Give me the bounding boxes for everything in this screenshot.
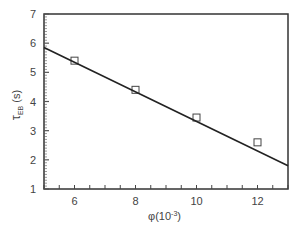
tick-labels: 6810121234567 xyxy=(30,8,264,207)
chart: 6810121234567 φ(10-3) τEB (s) xyxy=(0,0,303,233)
y-tick-label: 5 xyxy=(30,66,36,78)
y-tick-label: 6 xyxy=(30,37,36,49)
y-tick-label: 7 xyxy=(30,8,36,20)
y-tick-label: 2 xyxy=(30,154,36,166)
axis-ticks xyxy=(44,14,288,189)
x-tick-label: 8 xyxy=(132,195,138,207)
x-tick-label: 12 xyxy=(251,195,263,207)
data-series xyxy=(44,48,288,166)
x-tick-label: 6 xyxy=(71,195,77,207)
x-axis-label: φ(10-3) xyxy=(148,210,181,222)
x-tick-label: 10 xyxy=(190,195,202,207)
fit-line xyxy=(44,48,288,166)
y-axis-label: τEB (s) xyxy=(8,90,24,120)
y-tick-label: 3 xyxy=(30,125,36,137)
y-tick-label: 1 xyxy=(30,183,36,195)
y-tick-label: 4 xyxy=(30,96,36,108)
plot-frame xyxy=(44,14,288,189)
data-point-marker xyxy=(254,139,261,146)
